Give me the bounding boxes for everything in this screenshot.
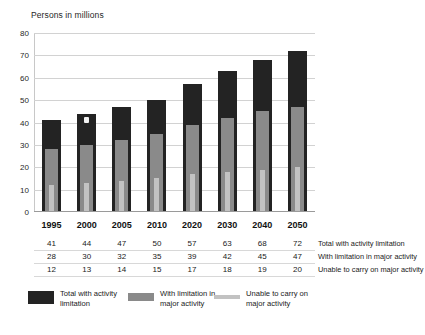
table-row: 1213141517181920Unable to carry on major… bbox=[34, 264, 315, 277]
bar-group bbox=[253, 33, 272, 212]
x-axis-tick-label: 1995 bbox=[32, 220, 72, 230]
y-axis-tick-label: 0 bbox=[25, 208, 29, 217]
legend-item: Total with activity limitation bbox=[28, 289, 136, 308]
y-axis-tick-label: 60 bbox=[20, 73, 29, 82]
table-cell: 50 bbox=[137, 238, 177, 250]
table-cell: 68 bbox=[242, 238, 282, 250]
table-cell: 20 bbox=[277, 264, 317, 276]
table-cell: 63 bbox=[207, 238, 247, 250]
table-row-label: With limitation in major activity bbox=[318, 251, 417, 263]
bar-group bbox=[183, 33, 202, 212]
table-cell: 45 bbox=[242, 251, 282, 263]
gridline bbox=[34, 145, 315, 146]
table-row: 4144475057636872Total with activity limi… bbox=[34, 238, 315, 251]
scan-artifact bbox=[84, 117, 89, 123]
gridline bbox=[34, 190, 315, 191]
table-cell: 39 bbox=[172, 251, 212, 263]
chart-legend: Total with activity limitationWith limit… bbox=[28, 289, 418, 319]
legend-swatch-total bbox=[28, 291, 54, 304]
table-cell: 42 bbox=[207, 251, 247, 263]
y-axis-tick-label: 50 bbox=[20, 96, 29, 105]
legend-label: Unable to carry on major activity bbox=[246, 289, 322, 308]
gridline bbox=[34, 78, 315, 79]
table-cell: 32 bbox=[102, 251, 142, 263]
x-axis-tick-label: 2030 bbox=[207, 220, 247, 230]
table-cell: 17 bbox=[172, 264, 212, 276]
gridline bbox=[34, 167, 315, 168]
table-cell: 47 bbox=[277, 251, 317, 263]
table-cell: 72 bbox=[277, 238, 317, 250]
table-row: 2830323539424547With limitation in major… bbox=[34, 251, 315, 264]
gridline bbox=[34, 33, 315, 34]
x-axis-tick-label: 2020 bbox=[172, 220, 212, 230]
legend-swatch-major-activity bbox=[128, 293, 154, 301]
bar-group bbox=[147, 33, 166, 212]
table-cell: 35 bbox=[137, 251, 177, 263]
legend-swatch-unable bbox=[214, 295, 240, 299]
table-row-label: Total with activity limitation bbox=[318, 238, 405, 250]
x-axis-tick-label: 2010 bbox=[137, 220, 177, 230]
table-cell: 57 bbox=[172, 238, 212, 250]
x-axis-labels: 19952000200520102020203020402050 bbox=[34, 220, 315, 234]
y-axis-tick-label: 40 bbox=[20, 118, 29, 127]
bar-segment-unable bbox=[84, 183, 89, 212]
bar-segment-unable bbox=[260, 170, 265, 213]
table-row-label: Unable to carry on major activity bbox=[318, 264, 424, 276]
bar-segment-unable bbox=[49, 185, 54, 212]
table-cell: 18 bbox=[207, 264, 247, 276]
legend-label: Total with activity limitation bbox=[60, 289, 136, 308]
table-cell: 41 bbox=[32, 238, 72, 250]
y-axis-tick-label: 30 bbox=[20, 140, 29, 149]
table-cell: 44 bbox=[67, 238, 107, 250]
bar-group bbox=[77, 33, 96, 212]
bar-segment-unable bbox=[154, 178, 159, 212]
table-cell: 30 bbox=[67, 251, 107, 263]
table-cell: 12 bbox=[32, 264, 72, 276]
x-axis-tick-label: 2040 bbox=[242, 220, 282, 230]
bar-group bbox=[218, 33, 237, 212]
bar-segment-unable bbox=[225, 172, 230, 212]
table-cell: 14 bbox=[102, 264, 142, 276]
gridline bbox=[34, 123, 315, 124]
legend-item: Unable to carry on major activity bbox=[214, 289, 322, 308]
table-cell: 28 bbox=[32, 251, 72, 263]
y-axis-tick-label: 20 bbox=[20, 163, 29, 172]
gridline bbox=[34, 55, 315, 56]
bar-group bbox=[42, 33, 61, 212]
x-axis-tick-label: 2000 bbox=[67, 220, 107, 230]
plot-area: 80706050403020100 bbox=[34, 33, 315, 212]
bar-segment-unable bbox=[190, 174, 195, 212]
data-table: 4144475057636872Total with activity limi… bbox=[34, 238, 315, 277]
bar-group bbox=[112, 33, 131, 212]
x-axis-tick-label: 2005 bbox=[102, 220, 142, 230]
y-axis-tick-label: 80 bbox=[20, 29, 29, 38]
table-cell: 15 bbox=[137, 264, 177, 276]
bar-segment-unable bbox=[295, 167, 300, 212]
bar-segment-unable bbox=[119, 181, 124, 212]
y-axis-tick-label: 70 bbox=[20, 51, 29, 60]
table-cell: 19 bbox=[242, 264, 282, 276]
x-axis-tick-label: 2050 bbox=[277, 220, 317, 230]
y-axis-tick-label: 10 bbox=[20, 185, 29, 194]
chart-title: Persons in millions bbox=[31, 10, 104, 20]
table-cell: 47 bbox=[102, 238, 142, 250]
x-axis-baseline bbox=[34, 211, 315, 212]
bar-group bbox=[288, 33, 307, 212]
gridline bbox=[34, 100, 315, 101]
table-cell: 13 bbox=[67, 264, 107, 276]
